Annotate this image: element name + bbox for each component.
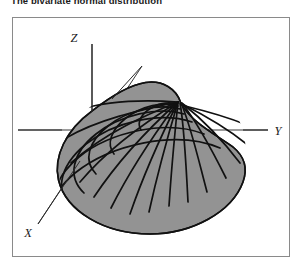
z-axis-label: Z (71, 31, 79, 45)
figure-caption: The bivariate normal distribution (11, 0, 291, 8)
density-surface (49, 82, 254, 252)
x-axis-label: X (23, 226, 33, 240)
figure-page: The bivariate normal distribution (0, 0, 300, 271)
bivariate-normal-surface-plot: Z Y X (12, 17, 290, 257)
figure-frame: Z Y X (12, 17, 290, 257)
y-axis-label: Y (275, 124, 284, 138)
